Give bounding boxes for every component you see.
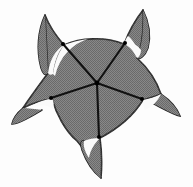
node-upper-right [123,41,127,45]
node-left [49,96,53,100]
node-bottom [97,135,101,139]
node-right [140,97,144,101]
node-center [95,81,100,86]
node-upper-left [61,42,65,46]
radial-cell-figure [0,0,193,187]
figure-container [0,0,193,187]
